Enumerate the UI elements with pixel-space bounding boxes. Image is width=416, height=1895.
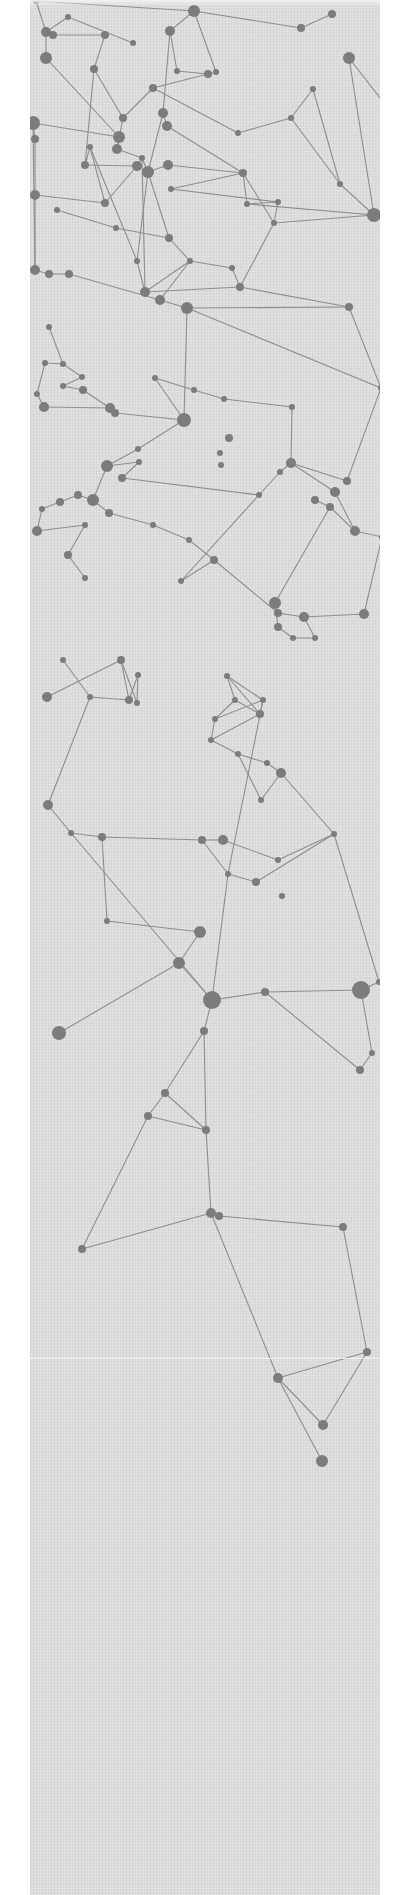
network-node <box>101 460 113 472</box>
network-node <box>200 1027 208 1035</box>
network-node <box>140 287 150 297</box>
network-edge <box>142 158 145 292</box>
network-edge <box>85 165 137 166</box>
network-node <box>229 265 235 271</box>
network-edges <box>33 1 380 1461</box>
network-edge <box>137 675 138 703</box>
network-nodes <box>30 0 380 1467</box>
network-node <box>356 1066 364 1074</box>
network-node <box>312 635 318 641</box>
network-node <box>54 207 60 213</box>
network-edge <box>169 238 190 261</box>
network-node <box>45 270 53 278</box>
network-edge <box>68 525 85 555</box>
network-node <box>359 609 369 619</box>
network-node <box>178 578 184 584</box>
network-edge <box>202 840 228 874</box>
network-edge <box>148 113 163 172</box>
network-node <box>326 503 334 511</box>
network-edge <box>238 118 291 133</box>
network-edge <box>349 307 380 388</box>
network-node <box>150 522 156 528</box>
network-node <box>136 459 142 465</box>
network-node <box>378 385 380 391</box>
network-edge <box>145 287 240 292</box>
network-node <box>174 68 180 74</box>
network-edge <box>219 1216 343 1227</box>
network-edge <box>153 74 208 88</box>
network-edge <box>177 71 208 74</box>
network-node <box>210 556 218 564</box>
network-node <box>206 1208 216 1218</box>
network-node <box>79 374 85 380</box>
network-edge <box>211 719 215 740</box>
network-edge <box>291 463 347 481</box>
network-node <box>260 697 266 703</box>
network-node <box>134 258 140 264</box>
network-edge <box>211 740 238 754</box>
network-node <box>264 760 270 766</box>
network-node <box>318 1420 328 1430</box>
network-edge <box>291 463 335 492</box>
network-edge <box>349 58 380 98</box>
network-node <box>101 199 109 207</box>
network-edge <box>240 223 274 287</box>
network-edge <box>148 172 169 238</box>
network-edge <box>240 287 349 307</box>
network-node <box>39 506 45 512</box>
network-node <box>286 458 296 468</box>
network-node <box>42 360 48 366</box>
network-edge <box>145 261 190 292</box>
network-edge <box>215 700 235 719</box>
network-edge <box>35 195 105 203</box>
network-node <box>119 114 127 122</box>
network-node <box>139 155 145 161</box>
network-node <box>235 130 241 136</box>
network-node <box>135 446 141 452</box>
network-node <box>343 477 351 485</box>
network-edge <box>184 308 187 420</box>
network-edge <box>278 1378 323 1425</box>
network-node <box>352 981 370 999</box>
network-node <box>30 190 40 200</box>
network-edge <box>291 118 340 184</box>
network-node <box>215 1212 223 1220</box>
network-node <box>165 234 173 242</box>
network-edge <box>48 697 90 805</box>
network-node <box>31 135 39 143</box>
network-edge <box>347 388 380 481</box>
network-node <box>311 496 319 504</box>
network-node <box>87 694 93 700</box>
network-edge <box>361 990 372 1053</box>
network-node <box>162 121 172 131</box>
network-node <box>235 751 241 757</box>
network-node <box>225 871 231 877</box>
network-node <box>118 474 126 482</box>
network-node <box>105 509 113 517</box>
network-node <box>74 491 82 499</box>
network-node <box>331 831 337 837</box>
network-node <box>276 768 286 778</box>
network-edge <box>105 166 137 203</box>
panel-top-fade <box>30 0 380 6</box>
network-node <box>42 692 52 702</box>
network-edge <box>349 58 374 215</box>
network-node <box>46 324 52 330</box>
network-edge <box>155 378 194 390</box>
network-edge <box>46 58 119 137</box>
network-edge <box>278 1378 322 1461</box>
network-node <box>101 31 109 39</box>
network-edge <box>224 399 292 407</box>
network-node <box>204 70 212 78</box>
network-edge <box>194 11 301 28</box>
network-node <box>113 131 125 143</box>
network-node <box>343 52 355 64</box>
network-node <box>130 40 136 46</box>
network-node <box>144 1112 152 1120</box>
network-edge <box>163 31 170 113</box>
network-edge <box>343 1227 367 1352</box>
network-node <box>337 181 343 187</box>
network-node <box>132 161 142 171</box>
network-node <box>194 926 206 938</box>
network-node <box>30 265 40 275</box>
